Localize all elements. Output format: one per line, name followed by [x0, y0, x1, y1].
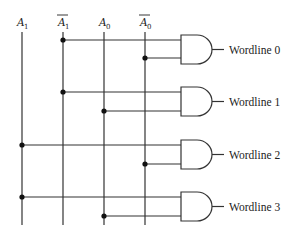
junction-dot [101, 108, 106, 113]
input-label-a0: A 0 [98, 16, 110, 31]
input-label-a1-bar: A 1 [57, 15, 69, 31]
and-gate-icon [181, 192, 212, 221]
junction-dot [142, 55, 147, 60]
and-gate-1: Wordline 1 [60, 87, 280, 116]
svg-text:0: 0 [147, 23, 151, 31]
and-gate-icon [181, 87, 212, 116]
svg-text:0: 0 [106, 23, 110, 31]
junction-dot [60, 89, 65, 94]
input-label-a1: A 1 [16, 16, 28, 31]
wordline-2-label: Wordline 2 [229, 149, 280, 161]
and-gate-2: Wordline 2 [19, 140, 280, 169]
junction-dot [19, 194, 24, 199]
junction-dot [19, 142, 24, 147]
junction-dot [60, 37, 65, 42]
and-gate-icon [181, 140, 212, 169]
wordline-1-label: Wordline 1 [229, 96, 280, 108]
wordline-0-label: Wordline 0 [229, 44, 280, 56]
svg-text:1: 1 [24, 23, 28, 31]
input-label-a0-bar: A 0 [139, 15, 151, 31]
wordline-3-label: Wordline 3 [229, 201, 280, 213]
junction-dot [142, 161, 147, 166]
and-gate-3: Wordline 3 [19, 192, 280, 221]
and-gate-icon [181, 35, 212, 64]
junction-dot [101, 213, 106, 218]
svg-text:1: 1 [65, 23, 69, 31]
decoder-diagram: A 1 A 1 A 0 A 0 Wordline 0 Wordline 1 [0, 0, 292, 236]
and-gate-0: Wordline 0 [60, 35, 280, 64]
